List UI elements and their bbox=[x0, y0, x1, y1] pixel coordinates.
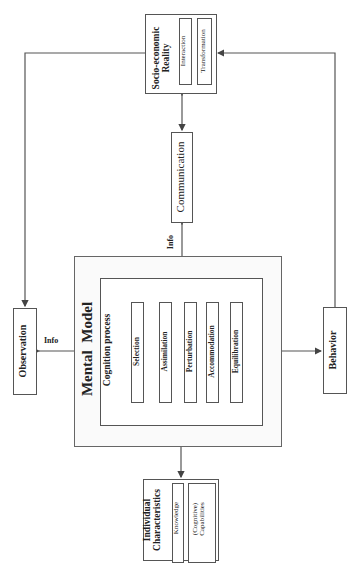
observation-label: Observation bbox=[18, 311, 32, 391]
step-assimilation-label: Assimilation bbox=[161, 316, 172, 388]
knowledge-label: Knowledge bbox=[173, 488, 183, 548]
step-accommodation-label: Accommodation bbox=[208, 306, 219, 398]
interaction-label: Interaction bbox=[180, 21, 190, 81]
cognition-process-title: Cognition process bbox=[103, 304, 117, 396]
socio-economic-title: Socio-economic Reality bbox=[152, 18, 176, 98]
step-equilibration-label: Equilibration bbox=[232, 312, 243, 392]
capabilities-label: (Cognitive) Capabilities bbox=[192, 489, 212, 549]
step-selection-label: Selection bbox=[133, 322, 144, 382]
step-perturbation-label: Perturbation bbox=[186, 316, 197, 388]
individual-characteristics-title: Individual Characteristics bbox=[143, 479, 169, 561]
communication-label: Communication bbox=[175, 132, 189, 222]
info-label-left: Info bbox=[44, 336, 58, 345]
mental-model-title: Mental Model bbox=[80, 287, 98, 411]
behavior-label: Behavior bbox=[328, 315, 342, 385]
info-label-top: Info bbox=[167, 230, 177, 254]
transformation-label: Transformation bbox=[200, 20, 210, 82]
